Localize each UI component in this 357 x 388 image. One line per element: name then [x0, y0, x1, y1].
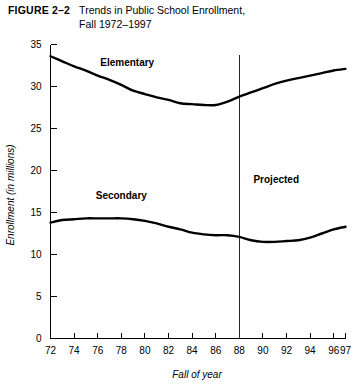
y-axis-title: Enrollment (in millions)	[5, 144, 16, 245]
x-axis-ticks	[51, 333, 346, 339]
y-axis-tick-labels: 05101520253035	[30, 39, 42, 344]
x-tick-label: 74	[69, 345, 81, 356]
plot-area: 05101520253035 7274767880828486889092949…	[0, 0, 357, 388]
y-tick-label: 5	[36, 291, 42, 302]
x-tick-label: 80	[139, 345, 151, 356]
y-tick-label: 20	[30, 165, 42, 176]
line-chart: 05101520253035 7274767880828486889092949…	[0, 0, 357, 388]
annotation-projected: Projected	[253, 174, 299, 185]
chart-annotations: Projected	[253, 174, 299, 185]
figure-container: FIGURE 2–2 Trends in Public School Enrol…	[0, 0, 357, 388]
y-tick-label: 10	[30, 249, 42, 260]
x-tick-label: 86	[210, 345, 222, 356]
y-tick-label: 15	[30, 207, 42, 218]
y-tick-label: 0	[36, 333, 42, 344]
x-tick-label: 94	[305, 345, 317, 356]
data-series-group	[51, 56, 346, 242]
y-tick-label: 25	[30, 123, 42, 134]
x-tick-label: 88	[234, 345, 246, 356]
y-tick-label: 35	[30, 39, 42, 50]
series-line-secondary	[51, 218, 346, 242]
series-line-elementary	[51, 56, 346, 105]
series-label-elementary: Elementary	[100, 57, 154, 68]
x-tick-label: 76	[92, 345, 104, 356]
x-tick-label: 96	[328, 345, 340, 356]
x-tick-label: 97	[340, 345, 352, 356]
x-tick-label: 78	[116, 345, 128, 356]
series-label-secondary: Secondary	[96, 190, 148, 201]
x-tick-label: 90	[257, 345, 269, 356]
x-axis-tick-labels: 7274767880828486889092949697	[45, 345, 352, 356]
x-tick-label: 72	[45, 345, 57, 356]
x-tick-label: 82	[163, 345, 175, 356]
x-tick-label: 92	[281, 345, 293, 356]
y-tick-label: 30	[30, 81, 42, 92]
x-tick-label: 84	[187, 345, 199, 356]
y-axis-ticks	[51, 45, 57, 339]
x-axis-title: Fall of year	[172, 369, 222, 380]
